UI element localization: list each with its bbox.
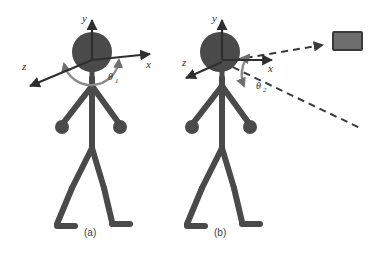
right-hand <box>114 121 126 133</box>
x-axis-label-a: x <box>145 58 151 70</box>
z-axis-label-a: z <box>21 60 27 72</box>
theta-1-label: θ <box>108 71 113 82</box>
y-axis-label-b: y <box>211 12 217 24</box>
left-hand <box>186 121 198 133</box>
y-axis-label-a: y <box>81 12 87 24</box>
theta-1-subscript: 1 <box>115 77 119 85</box>
diagram-canvas: y x z θ 1 (a) <box>0 0 372 253</box>
x-axis-label-b: x <box>267 62 273 74</box>
theta-2-subscript: 2 <box>263 86 267 94</box>
target-box <box>333 32 362 50</box>
theta-2-label: θ <box>256 80 261 91</box>
figure-container: y x z θ 1 (a) <box>0 0 372 253</box>
z-axis-label-b: z <box>181 56 187 68</box>
right-hand <box>244 121 256 133</box>
caption-b: (b) <box>214 227 226 238</box>
head <box>200 32 240 72</box>
caption-a: (a) <box>84 227 96 238</box>
left-hand <box>56 121 68 133</box>
